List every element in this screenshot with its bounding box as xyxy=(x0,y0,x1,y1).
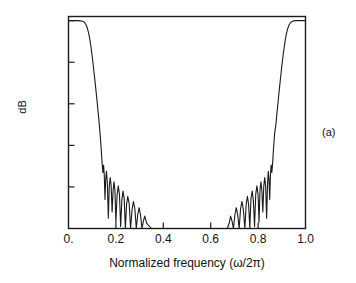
x-tick-label: 0.6 xyxy=(191,232,231,246)
x-tick-label: 1.0 xyxy=(286,232,326,246)
response-curve xyxy=(69,21,306,229)
x-tick-label: 0. xyxy=(49,232,89,246)
x-tick-label: 0.8 xyxy=(238,232,278,246)
x-tick-label: 0.2 xyxy=(96,232,136,246)
panel-annotation-a: (a) xyxy=(322,126,335,138)
axis-ticks xyxy=(69,21,259,229)
y-axis-title: dB xyxy=(16,87,28,127)
figure-panel: 0.-20.0-40.0-60.0-80.0-100.0 0.0.20.40.6… xyxy=(0,0,356,283)
x-axis-title: Normalized frequency (ω/2π) xyxy=(68,256,306,270)
x-tick-label: 0.4 xyxy=(143,232,183,246)
